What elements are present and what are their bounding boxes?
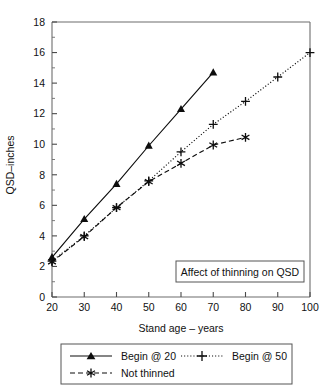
series-path [52,137,246,262]
chart-figure: 024681012141618 2030405060708090100 Affe… [0,0,327,387]
annotation-box-label: Affect of thinning on QSD [181,266,300,278]
series-path [52,72,213,257]
x-tick-label: 30 [78,301,90,313]
x-axis-title: Stand age – years [138,322,223,334]
triangle-marker-icon [209,68,217,75]
y-tick-label: 14 [33,77,45,89]
y-tick-label: 0 [39,291,45,303]
x-tick-label: 20 [46,301,58,313]
series-path [52,53,310,262]
x-tick-label: 80 [240,301,252,313]
x-tick-label: 70 [207,301,219,313]
series-begin-50 [48,48,315,265]
y-tick-label: 2 [39,260,45,272]
legend: Begin @ 20 Begin @ 50 Not thinned [61,344,292,384]
x-tick-label: 90 [272,301,284,313]
x-tick-label: 50 [143,301,155,313]
y-tick-label: 4 [39,230,45,242]
series-begin-20 [48,68,217,260]
annotation-box: Affect of thinning on QSD [176,261,304,282]
legend-label-not-thinned: Not thinned [121,367,175,379]
asterisk-marker-icon [80,232,88,241]
x-tick-label: 60 [175,301,187,313]
data-series-group [48,48,315,266]
y-axis-title: QSD–inches [4,136,16,195]
plus-marker-icon [306,48,315,57]
series-not-thinned [48,133,249,266]
y-tick-label: 10 [33,138,45,150]
plus-marker-icon [273,73,282,82]
legend-label-begin-at-20: Begin @ 20 [121,350,176,362]
asterisk-marker-icon [209,141,217,150]
x-tick-label: 40 [111,301,123,313]
asterisk-marker-icon [177,159,185,168]
x-tick-label: 100 [301,301,319,313]
y-tick-label: 18 [33,16,45,28]
y-tick-label: 6 [39,199,45,211]
plus-marker-icon [209,120,218,129]
qsd-line-chart: 024681012141618 2030405060708090100 Affe… [0,0,327,387]
plus-marker-icon [241,97,250,106]
y-tick-label: 16 [33,46,45,58]
asterisk-marker-icon [145,177,153,186]
y-tick-label: 8 [39,169,45,181]
legend-label-begin-at-50: Begin @ 50 [232,350,287,362]
y-tick-label: 12 [33,107,45,119]
asterisk-marker-icon [242,133,250,142]
x-axis: 2030405060708090100 [46,292,319,313]
